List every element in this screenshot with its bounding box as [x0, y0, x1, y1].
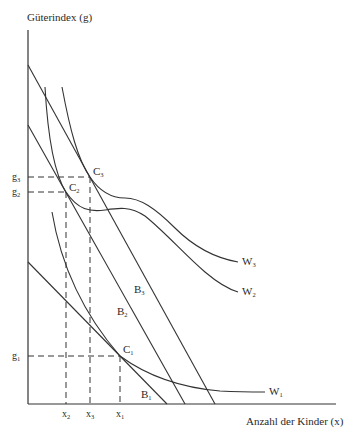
budget-label-b3: B3	[134, 283, 145, 296]
y-tick-g2: g2	[12, 186, 20, 198]
x-axis-title: Anzahl der Kinder (x)	[246, 415, 344, 428]
x-tick-x1: x1	[116, 408, 124, 420]
budget-line-b1	[28, 262, 167, 404]
point-label-c3: C3	[93, 165, 104, 178]
projection-lines	[28, 177, 120, 404]
budget-label-b2: B2	[117, 305, 128, 318]
indifference-curve-w3	[62, 87, 238, 262]
point-label-c1: C1	[123, 343, 134, 356]
diagram-canvas: Güterindex (g) Anzahl der Kinder (x) g3 …	[0, 0, 354, 438]
y-tick-g3: g3	[12, 171, 20, 183]
point-label-c2: C2	[69, 181, 80, 194]
x-tick-x2: x2	[62, 408, 70, 420]
budget-label-b1: B1	[141, 388, 152, 401]
curve-label-w1: W1	[269, 385, 283, 398]
x-tick-x3: x3	[86, 408, 94, 420]
y-axis-title: Güterindex (g)	[27, 11, 92, 24]
curve-label-w2: W2	[242, 285, 256, 298]
budget-line-b3	[28, 65, 215, 404]
curve-label-w3: W3	[242, 255, 256, 268]
budget-line-b2	[28, 125, 185, 404]
y-tick-g1: g1	[12, 350, 20, 362]
